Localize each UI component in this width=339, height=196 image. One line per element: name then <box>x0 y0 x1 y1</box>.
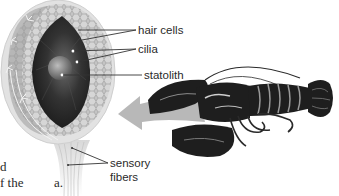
panel-label: a. <box>54 176 63 190</box>
label-fibers: fibers <box>110 171 138 184</box>
body-text-fragment-2: f the <box>0 176 23 190</box>
body-text-fragment-1: d <box>0 160 7 174</box>
label-cilia: cilia <box>138 43 158 56</box>
statolith <box>48 56 72 80</box>
statocyst-figure: hair cells cilia statolith sensory fiber… <box>0 0 339 196</box>
label-hair-cells: hair cells <box>138 24 183 37</box>
label-sensory: sensory <box>110 157 150 170</box>
label-statolith: statolith <box>144 69 184 82</box>
